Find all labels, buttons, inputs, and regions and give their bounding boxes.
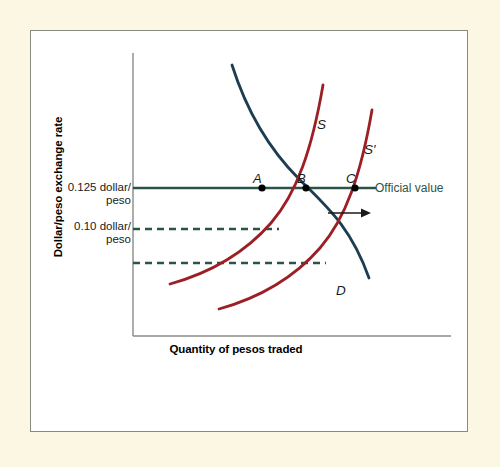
supply-curve-shifted [219, 110, 372, 309]
curve-label-supply: S [317, 117, 326, 132]
y-tick-label-010-line2: peso [39, 233, 131, 246]
x-axis-title: Quantity of pesos traded [101, 343, 371, 355]
curve-label-supply-shifted: S′ [364, 142, 376, 157]
point-label-b: B [297, 171, 306, 186]
y-tick-label-0125: 0.125 dollar/ peso [39, 181, 131, 207]
y-tick-label-010: 0.10 dollar/ peso [39, 220, 131, 246]
curve-label-demand: D [336, 283, 346, 298]
official-value-label: Official value [375, 181, 443, 195]
point-label-c: C [346, 171, 355, 186]
point-label-a: A [253, 171, 262, 186]
y-tick-label-0125-line1: 0.125 dollar/ [39, 181, 131, 194]
chart-area: Dollar/peso exchange rate Quantity of pe… [31, 31, 469, 433]
figure-root: Dollar/peso exchange rate Quantity of pe… [0, 0, 500, 467]
shift-arrow-head [361, 209, 371, 218]
figure-panel: Dollar/peso exchange rate Quantity of pe… [30, 30, 468, 432]
y-tick-label-0125-line2: peso [39, 194, 131, 207]
y-tick-label-010-line1: 0.10 dollar/ [39, 220, 131, 233]
